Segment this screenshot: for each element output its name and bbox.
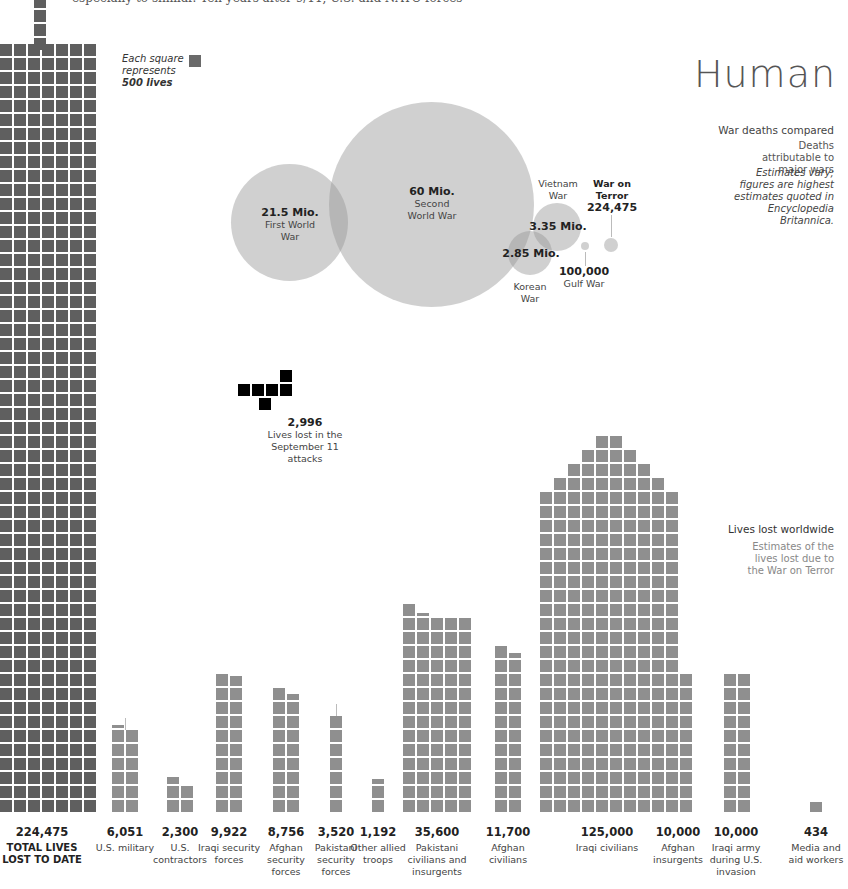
- waffle-square: [540, 618, 552, 630]
- waffle-square: [0, 296, 12, 308]
- waffle-square: [42, 590, 54, 602]
- waffle-square: [126, 772, 138, 784]
- waffle-square: [14, 366, 26, 378]
- waffle-square: [14, 282, 26, 294]
- waffle-square: [84, 282, 96, 294]
- waffle-square: [738, 702, 750, 714]
- waffle-square: [14, 604, 26, 616]
- legend-square-icon: [189, 55, 201, 67]
- waffle-square: [610, 758, 622, 770]
- waffle-square: [56, 492, 68, 504]
- waffle-square: [42, 534, 54, 546]
- waffle-square: [70, 702, 82, 714]
- waffle-square: [724, 716, 736, 728]
- waffle-square: [596, 772, 608, 784]
- waffle-square: [568, 576, 580, 588]
- waffle-square: [680, 786, 692, 798]
- waffle-square: [0, 800, 12, 812]
- waffle-square: [610, 464, 622, 476]
- waffle-square: [431, 646, 443, 658]
- waffle-square: [403, 674, 415, 686]
- waffle-square: [273, 744, 285, 756]
- waffle-square: [596, 548, 608, 560]
- waffle-square: [70, 772, 82, 784]
- waffle-square: [417, 772, 429, 784]
- waffle-square: [70, 674, 82, 686]
- waffle-square: [540, 562, 552, 574]
- legend-line: represents: [122, 65, 184, 77]
- waffle-square: [14, 114, 26, 126]
- waffle-square: [56, 604, 68, 616]
- worldwide-heading: Lives lost worldwide: [728, 523, 834, 535]
- waffle-square: [724, 744, 736, 756]
- waffle-square: [445, 730, 457, 742]
- waffle-square: [459, 786, 471, 798]
- waffle-square: [596, 786, 608, 798]
- waffle-square: [280, 384, 292, 396]
- waffle-square: [680, 674, 692, 686]
- waffle-square: [56, 58, 68, 70]
- waffle-square: [70, 576, 82, 588]
- waffle-square: [56, 156, 68, 168]
- waffle-square: [540, 674, 552, 686]
- waffle-square: [540, 548, 552, 560]
- waffle-square: [509, 758, 521, 770]
- waffle-square: [610, 674, 622, 686]
- war-deaths-heading: War deaths compared: [718, 124, 834, 136]
- value: 2.85 Mio.: [502, 247, 559, 260]
- waffle-square: [652, 786, 664, 798]
- waffle-square: [509, 772, 521, 784]
- waffle-square: [652, 744, 664, 756]
- waffle-square: [568, 478, 580, 490]
- waffle-square: [42, 408, 54, 420]
- waffle-square: [610, 688, 622, 700]
- waffle-square: [724, 702, 736, 714]
- waffle-square: [738, 674, 750, 686]
- waffle-square: [445, 660, 457, 672]
- waffle-square: [638, 590, 650, 602]
- waffle-square: [638, 492, 650, 504]
- waffle-square: [42, 730, 54, 742]
- waffle-square: [28, 688, 40, 700]
- waffle-square: [42, 86, 54, 98]
- waffle-square: [216, 800, 228, 812]
- waffle-square: [540, 758, 552, 770]
- waffle-square: [666, 492, 678, 504]
- waffle-square: [216, 674, 228, 686]
- sept11-text: Lives lost in the September 11 attacks: [265, 429, 345, 465]
- waffle-square: [596, 632, 608, 644]
- waffle-square: [56, 772, 68, 784]
- waffle-square: [230, 702, 242, 714]
- value: 224,475: [587, 201, 637, 214]
- waffle-square: [372, 800, 384, 812]
- waffle-square: [0, 688, 12, 700]
- waffle-square: [42, 72, 54, 84]
- waffle-square: [582, 688, 594, 700]
- waffle-square: [417, 800, 429, 812]
- waffle-square: [568, 646, 580, 658]
- waffle-square: [42, 646, 54, 658]
- waffle-square: [540, 492, 552, 504]
- waffle-square: [638, 786, 650, 798]
- waffle-square: [666, 562, 678, 574]
- category-label: 6,051U.S. military: [95, 826, 155, 854]
- waffle-square: [0, 254, 12, 266]
- waffle-square: [70, 450, 82, 462]
- waffle-square: [56, 142, 68, 154]
- waffle-square: [666, 716, 678, 728]
- waffle-square: [738, 688, 750, 700]
- waffle-square: [724, 758, 736, 770]
- waffle-square: [624, 450, 636, 462]
- waffle-square: [495, 772, 507, 784]
- waffle-square: [610, 548, 622, 560]
- waffle-square: [70, 464, 82, 476]
- waffle-square: [638, 548, 650, 560]
- waffle-square: [0, 142, 12, 154]
- waffle-square: [540, 576, 552, 588]
- waffle-square: [14, 184, 26, 196]
- waffle-square: [42, 296, 54, 308]
- waffle-square: [509, 674, 521, 686]
- waffle-square: [126, 786, 138, 798]
- waffle-square: [596, 464, 608, 476]
- waffle-square: [417, 613, 429, 616]
